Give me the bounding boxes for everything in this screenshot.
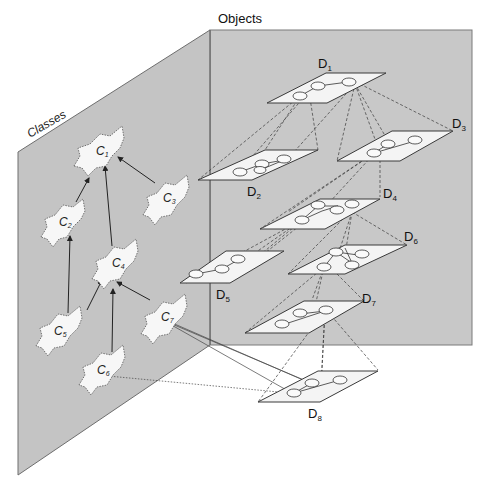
diagram-canvas: Objects Classes [0,0,484,493]
objects-label: Objects [218,11,263,26]
diagram-svg: Objects Classes [0,0,484,493]
label-d8: D8 [308,406,322,423]
